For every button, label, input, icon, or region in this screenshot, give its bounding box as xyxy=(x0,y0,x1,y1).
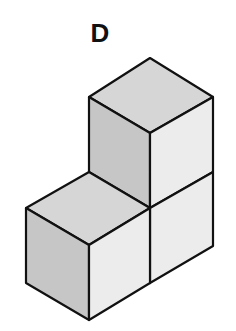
cube-diagram xyxy=(0,0,236,331)
